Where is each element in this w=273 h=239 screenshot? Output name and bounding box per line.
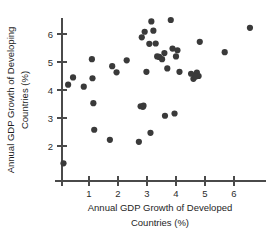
- data-point: [90, 100, 96, 106]
- data-point: [153, 40, 159, 46]
- data-point: [150, 28, 156, 34]
- data-point: [70, 74, 76, 80]
- data-point: [109, 63, 115, 69]
- data-point: [147, 130, 153, 136]
- x-tick-label: 1: [86, 188, 91, 199]
- data-points-group: [60, 17, 253, 167]
- x-tick-label: 3: [144, 188, 149, 199]
- y-tick-label: 5: [48, 57, 53, 68]
- x-tick-label: 5: [202, 188, 207, 199]
- data-point: [65, 82, 71, 88]
- data-point: [164, 65, 170, 71]
- y-tick-label: 2: [48, 141, 53, 152]
- data-point: [124, 57, 130, 63]
- y-axis-label-line2: Countries (%): [19, 71, 30, 129]
- x-tick-label: 6: [231, 188, 236, 199]
- data-point: [176, 69, 182, 75]
- plot-canvas: 23456 123456 Annual GDP Growth of Develo…: [0, 0, 273, 239]
- data-point: [173, 53, 179, 59]
- data-point: [171, 110, 177, 116]
- y-tick-label: 3: [48, 113, 53, 124]
- data-point: [193, 73, 199, 79]
- data-point: [146, 41, 152, 47]
- data-point: [168, 17, 174, 23]
- x-tick-label: 2: [115, 188, 120, 199]
- y-axis-label-line1: Annual GDP Growth of Developing: [5, 27, 16, 174]
- data-point: [247, 25, 253, 31]
- data-point: [148, 18, 154, 24]
- data-point: [107, 137, 113, 143]
- data-point: [154, 53, 160, 59]
- data-point: [162, 113, 168, 119]
- data-point: [89, 75, 95, 81]
- x-axis-label-line1: Annual GDP Growth of Developed: [88, 202, 233, 213]
- scatter-plot-figure: 23456 123456 Annual GDP Growth of Develo…: [0, 0, 273, 239]
- data-point: [161, 50, 167, 56]
- data-point: [139, 34, 145, 40]
- data-point: [136, 139, 142, 145]
- data-point: [89, 56, 95, 62]
- data-point: [174, 47, 180, 53]
- y-tick-label: 4: [48, 85, 53, 96]
- y-tick-label: 6: [48, 29, 53, 40]
- x-tick-label: 4: [173, 188, 178, 199]
- data-point: [81, 84, 87, 90]
- data-point: [91, 127, 97, 133]
- data-point: [113, 69, 119, 75]
- data-point: [140, 103, 146, 109]
- x-tick-group: 123456: [86, 176, 236, 199]
- data-point: [142, 29, 148, 35]
- y-tick-group: 23456: [48, 29, 67, 152]
- data-point: [222, 49, 228, 55]
- x-axis-label-line2: Countries (%): [131, 217, 189, 228]
- data-point: [143, 69, 149, 75]
- data-point: [60, 160, 66, 166]
- data-point: [197, 39, 203, 45]
